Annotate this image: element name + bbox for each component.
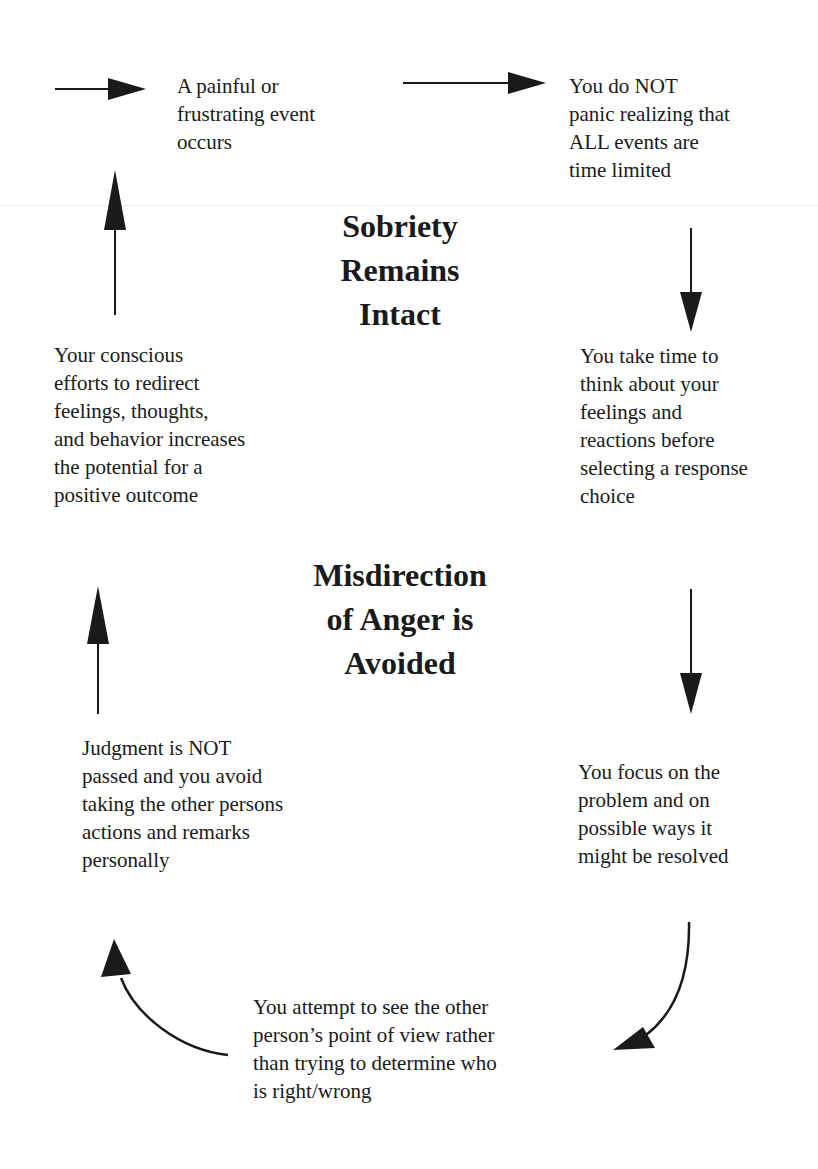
node-conscious-efforts: Your conscious efforts to redirect feeli… xyxy=(54,341,245,509)
node-focus-problem: You focus on the problem and on possible… xyxy=(578,758,728,870)
center-label-sobriety: Sobriety Remains Intact xyxy=(300,204,500,336)
arrow-curved-down-left-icon xyxy=(613,922,689,1050)
arrow-up-icon xyxy=(104,170,126,315)
arrow-up-icon xyxy=(87,586,109,714)
arrow-down-icon xyxy=(680,228,702,332)
node-take-time: You take time to think about your feelin… xyxy=(580,342,748,510)
arrow-down-icon xyxy=(680,589,702,714)
node-judgment-not-passed: Judgment is NOT passed and you avoid tak… xyxy=(82,734,283,874)
center-label-misdirection: Misdirection of Anger is Avoided xyxy=(280,553,520,685)
arrow-right-icon xyxy=(403,72,546,94)
node-other-view: You attempt to see the other person’s po… xyxy=(253,993,497,1105)
node-painful-event: A painful or frustrating event occurs xyxy=(177,72,315,156)
arrow-right-start-icon xyxy=(55,78,146,100)
node-no-panic: You do NOT panic realizing that ALL even… xyxy=(569,72,730,184)
arrow-curved-up-left-icon xyxy=(101,939,228,1055)
